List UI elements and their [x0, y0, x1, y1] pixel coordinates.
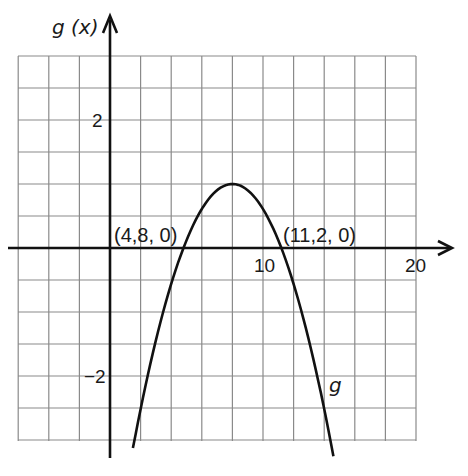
root-label-left: (4,8, 0) — [114, 224, 177, 246]
x-tick-label-10: 10 — [254, 255, 275, 276]
x-tick-label-20: 20 — [405, 255, 426, 276]
y-axis-label: g (x) — [52, 15, 99, 39]
y-tick-label-neg2: −2 — [84, 366, 106, 387]
parabola-chart: g (x) 2 −2 10 20 (4,8, 0) (11,2, 0) g — [0, 0, 468, 476]
curve-label-g: g — [329, 373, 342, 397]
y-tick-label-2: 2 — [92, 110, 103, 131]
root-label-right: (11,2, 0) — [283, 224, 356, 246]
